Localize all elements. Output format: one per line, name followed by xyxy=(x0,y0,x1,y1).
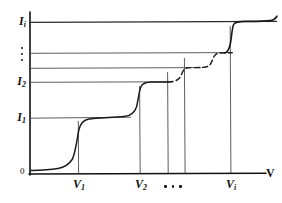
drop-line-v4 xyxy=(184,58,185,173)
y-axis-vertical-ellipsis xyxy=(19,47,25,65)
y-tick-label-i2: I2 xyxy=(4,75,26,87)
x-tick-label-v1: V1 xyxy=(66,178,92,190)
leader-line-i3 xyxy=(31,68,202,69)
staircase-plot xyxy=(0,0,282,203)
x-tick-label-vi: Vi xyxy=(218,178,244,190)
drop-line-v3 xyxy=(168,72,169,173)
x-axis-line xyxy=(29,173,266,174)
drop-line-v2 xyxy=(140,86,141,173)
y-tick-label-ii: Ii xyxy=(4,15,26,27)
drop-line-vi xyxy=(230,26,231,173)
x-axis-name: V xyxy=(266,167,275,179)
origin-label: 0 xyxy=(20,167,25,176)
x-tick-label-v2: V2 xyxy=(128,178,154,190)
y-tick-label-i1: I1 xyxy=(4,111,26,123)
x-axis-horizontal-ellipsis xyxy=(164,185,182,188)
leader-line-i4 xyxy=(31,53,234,54)
curve-solid-lower xyxy=(31,82,168,171)
figure-container: Ii I2 I1 0 V1 V2 Vi V xyxy=(0,0,282,203)
